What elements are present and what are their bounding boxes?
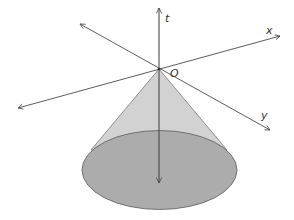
- x-axis-label: x: [265, 24, 273, 37]
- origin-point: [158, 68, 161, 71]
- cone-diagram: t x y O: [0, 0, 294, 220]
- origin-label: O: [170, 67, 179, 80]
- y-axis-label: y: [260, 109, 268, 122]
- t-axis-label: t: [165, 12, 170, 25]
